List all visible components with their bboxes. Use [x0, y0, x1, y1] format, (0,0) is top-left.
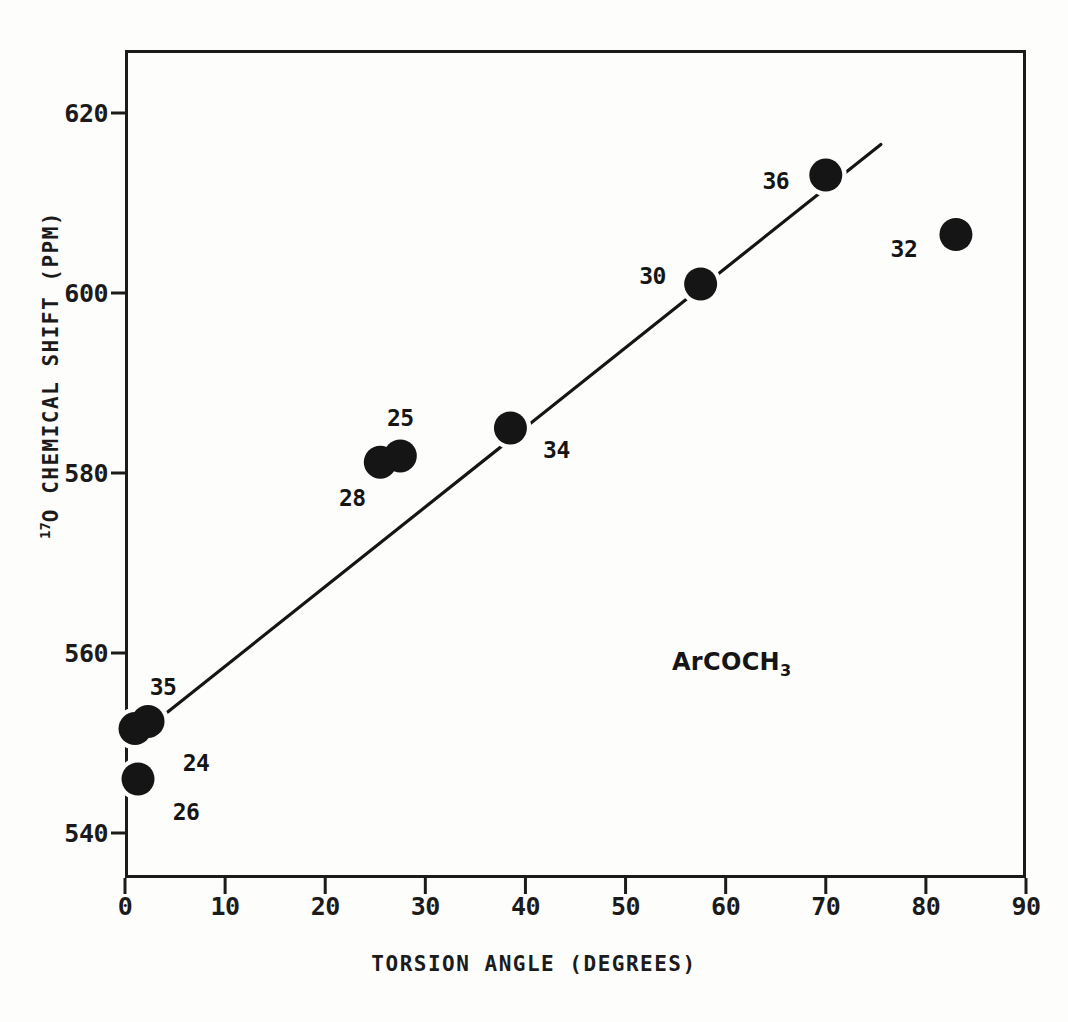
x-tick-label: 60 — [711, 892, 740, 921]
y-axis-title-text: O CHEMICAL SHIFT (PPM) — [39, 211, 63, 522]
y-tick-label: 620 — [64, 99, 108, 128]
x-tick-label: 10 — [211, 892, 240, 921]
data-point-label: 25 — [387, 405, 414, 431]
x-tick-label: 70 — [811, 892, 840, 921]
x-tick-label: 80 — [911, 892, 940, 921]
x-tick-label: 40 — [511, 892, 540, 921]
x-tick-label: 30 — [411, 892, 440, 921]
y-axis-title-superscript: 17 — [37, 522, 53, 539]
plot-frame — [125, 50, 1026, 878]
x-tick-label: 50 — [611, 892, 640, 921]
y-tick-label: 560 — [64, 639, 108, 668]
x-tick-label: 0 — [118, 892, 133, 921]
y-tick-label: 600 — [64, 279, 108, 308]
chart-page: 540560580600620 0102030405060708090 3524… — [0, 0, 1068, 1022]
data-point-label: 30 — [639, 263, 666, 289]
data-point-label: 35 — [150, 674, 177, 700]
y-tick-label: 540 — [64, 819, 108, 848]
series-annotation-text: ArCOCH — [672, 648, 780, 676]
series-annotation: ArCOCH3 — [672, 648, 791, 680]
x-tick-label: 20 — [311, 892, 340, 921]
series-annotation-subscript: 3 — [780, 661, 791, 680]
data-point-label: 24 — [183, 750, 210, 776]
data-point-label: 28 — [339, 485, 366, 511]
data-point-label: 36 — [762, 168, 789, 194]
x-axis-tick-labels: 0102030405060708090 — [0, 892, 1068, 932]
data-point-label: 32 — [891, 236, 918, 262]
y-axis-title: 17O CHEMICAL SHIFT (PPM) — [37, 95, 63, 655]
x-tick-label: 90 — [1011, 892, 1040, 921]
data-point-label: 34 — [543, 437, 570, 463]
x-axis-title: TORSION ANGLE (DEGREES) — [0, 952, 1068, 976]
data-point-label: 26 — [173, 799, 200, 825]
y-tick-label: 580 — [64, 459, 108, 488]
